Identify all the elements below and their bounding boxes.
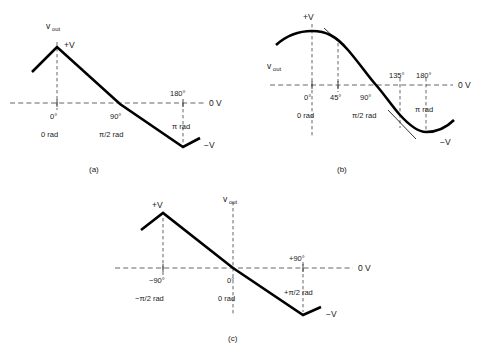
tick-label-135deg-b: 135° bbox=[389, 71, 405, 80]
rad-label-pi2-a: π/2 rad bbox=[99, 130, 123, 139]
peak-pos-label-a: +V bbox=[64, 40, 75, 50]
peak-pos-label-b: +V bbox=[303, 12, 314, 22]
tangent-line-45deg-b bbox=[324, 28, 350, 52]
vout-label-c: v bbox=[223, 194, 228, 204]
panel-c: +V −V 0 V v out −90° 0° +90° −π/2 rad 0 … bbox=[105, 180, 390, 352]
panel-caption-c: (c) bbox=[228, 334, 238, 343]
tick-label-180deg-b: 180° bbox=[416, 71, 432, 80]
rad-label-pi-a: π rad bbox=[172, 122, 190, 131]
rad-label-0-b: 0 rad bbox=[297, 111, 314, 120]
rad-label-pospi2-c: +π/2 rad bbox=[284, 288, 313, 297]
vout-subscript-c: out bbox=[229, 199, 237, 205]
rad-label-negpi2-c: −π/2 rad bbox=[135, 294, 164, 303]
vout-subscript-a: out bbox=[52, 26, 60, 32]
peak-neg-label-b: −V bbox=[440, 137, 451, 147]
tick-label-180deg-a: 180° bbox=[170, 89, 186, 98]
tick-label-neg90deg-c: −90° bbox=[149, 276, 165, 285]
peak-neg-label-a: −V bbox=[204, 140, 215, 150]
tick-label-45deg-b: 45° bbox=[330, 93, 341, 102]
tick-label-0deg-c: 0° bbox=[227, 276, 234, 285]
peak-neg-label-c: −V bbox=[326, 309, 337, 319]
panel-caption-a: (a) bbox=[89, 165, 99, 174]
tick-label-90deg-a: 90° bbox=[110, 112, 121, 121]
zero-volt-label-c: 0 V bbox=[358, 263, 371, 273]
vout-label-a: v bbox=[46, 21, 51, 31]
rad-label-pi2-b: π/2 rad bbox=[352, 111, 376, 120]
rad-label-0-c: 0 rad bbox=[218, 294, 235, 303]
zero-volt-label-a: 0 V bbox=[209, 98, 222, 108]
tick-label-0deg-b: 0° bbox=[304, 93, 311, 102]
peak-pos-label-c: +V bbox=[152, 200, 163, 210]
vout-label-b: v bbox=[267, 61, 272, 71]
rad-label-0-a: 0 rad bbox=[41, 130, 58, 139]
rad-label-pi-b: π rad bbox=[415, 105, 433, 114]
panel-a: v out +V −V 0 V 0° 90° 180° 0 rad π/2 ra… bbox=[0, 0, 250, 180]
vout-subscript-b: out bbox=[273, 66, 281, 72]
waveform-figure: v out +V −V 0 V 0° 90° 180° 0 rad π/2 ra… bbox=[0, 0, 487, 352]
tick-label-0deg-a: 0° bbox=[50, 112, 57, 121]
panel-b: +V −V 0 V v out 0° 45° 90° 135° 180° 0 r… bbox=[250, 0, 487, 180]
tick-label-pos90deg-c: +90° bbox=[289, 254, 305, 263]
tick-label-90deg-b: 90° bbox=[360, 93, 371, 102]
panel-caption-b: (b) bbox=[337, 165, 347, 174]
zero-volt-label-b: 0 V bbox=[458, 80, 471, 90]
